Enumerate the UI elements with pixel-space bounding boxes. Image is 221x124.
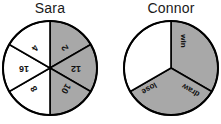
spinner-block-sara: Sara 2 12 10 8 16 4: [0, 0, 100, 118]
spinner-block-connor: Connor win draw lose: [121, 0, 221, 118]
spinner-svg-connor: win draw lose: [121, 18, 221, 118]
spinner-title-sara: Sara: [35, 1, 65, 16]
spinner-title-connor: Connor: [147, 1, 194, 16]
spinner-svg-sara: 2 12 10 8 16 4: [0, 18, 100, 118]
spinner-wheel-sara: 2 12 10 8 16 4: [0, 18, 100, 118]
connor-sector-label-0: win: [179, 33, 188, 47]
sara-sector-label-1: 12: [71, 64, 81, 74]
spinner-figure: Sara 2 12 10 8 16 4 Con: [0, 0, 221, 124]
sara-sector-label-4: 16: [19, 64, 29, 74]
spinner-wheel-connor: win draw lose: [121, 18, 221, 118]
